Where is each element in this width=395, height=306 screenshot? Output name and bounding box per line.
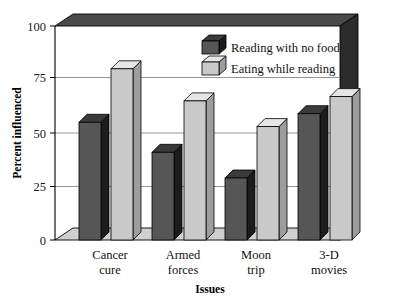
bar-armed-forces-reading-with-no-food (152, 144, 182, 240)
y-tick-marks (50, 26, 55, 240)
bar-front (257, 127, 279, 240)
bar-3d-movies-reading-with-no-food (298, 106, 328, 240)
chart-canvas: 100 75 50 25 0 Percent influenced (0, 0, 395, 306)
legend-swatch-reading-with-no-food (202, 35, 226, 54)
bar-moon-trip-reading-with-no-food (225, 170, 255, 240)
bar-front (225, 178, 247, 240)
bar-side (206, 93, 214, 240)
category-label-3d-movies-line2: movies (311, 263, 347, 277)
bar-side (101, 114, 109, 240)
bar-side (133, 61, 141, 240)
category-label-cancer-cure-line2: cure (99, 263, 121, 277)
category-label-3d-movies-line1: 3-D (319, 248, 338, 262)
bar-front (152, 152, 174, 240)
bar-side (320, 106, 328, 240)
bar-side (279, 119, 287, 240)
legend-label-reading-with-no-food: Reading with no food (231, 41, 340, 55)
bar-side (247, 170, 255, 240)
bar-chart: 100 75 50 25 0 Percent influenced (0, 0, 395, 306)
y-axis-title: Percent influenced (11, 87, 23, 179)
bar-front (111, 69, 133, 240)
category-label-cancer-cure-line1: Cancer (92, 248, 128, 262)
bar-front (79, 122, 101, 240)
bar-front (330, 97, 352, 240)
y-tick-label-75: 75 (34, 71, 47, 85)
y-tick-label-0: 0 (40, 234, 46, 248)
bar-moon-trip-eating-while-reading (257, 119, 287, 240)
y-tick-label-25: 25 (34, 180, 47, 194)
category-label-moon-trip-line1: Moon (241, 248, 272, 262)
y-tick-label-50: 50 (34, 127, 47, 141)
bar-side (174, 144, 182, 240)
swatch-front (202, 41, 219, 54)
category-label-moon-trip-line2: trip (247, 263, 264, 277)
wall-top-band (55, 14, 358, 26)
bar-cancer-cure-eating-while-reading (111, 61, 141, 240)
x-axis-title: Issues (195, 283, 225, 295)
legend-swatch-eating-while-reading (202, 56, 226, 75)
bar-front (184, 101, 206, 240)
bar-3d-movies-eating-while-reading (330, 89, 360, 240)
bar-front (298, 114, 320, 240)
bar-side (352, 89, 360, 240)
x-category-labels: Cancer cure Armed forces Moon trip 3-D m… (92, 248, 347, 277)
category-label-armed-forces-line1: Armed (166, 248, 201, 262)
legend-label-eating-while-reading: Eating while reading (231, 62, 336, 76)
bar-cancer-cure-reading-with-no-food (79, 114, 109, 240)
bar-armed-forces-eating-while-reading (184, 93, 214, 240)
category-label-armed-forces-line2: forces (168, 263, 199, 277)
swatch-front (202, 62, 219, 75)
y-tick-label-100: 100 (27, 20, 46, 34)
